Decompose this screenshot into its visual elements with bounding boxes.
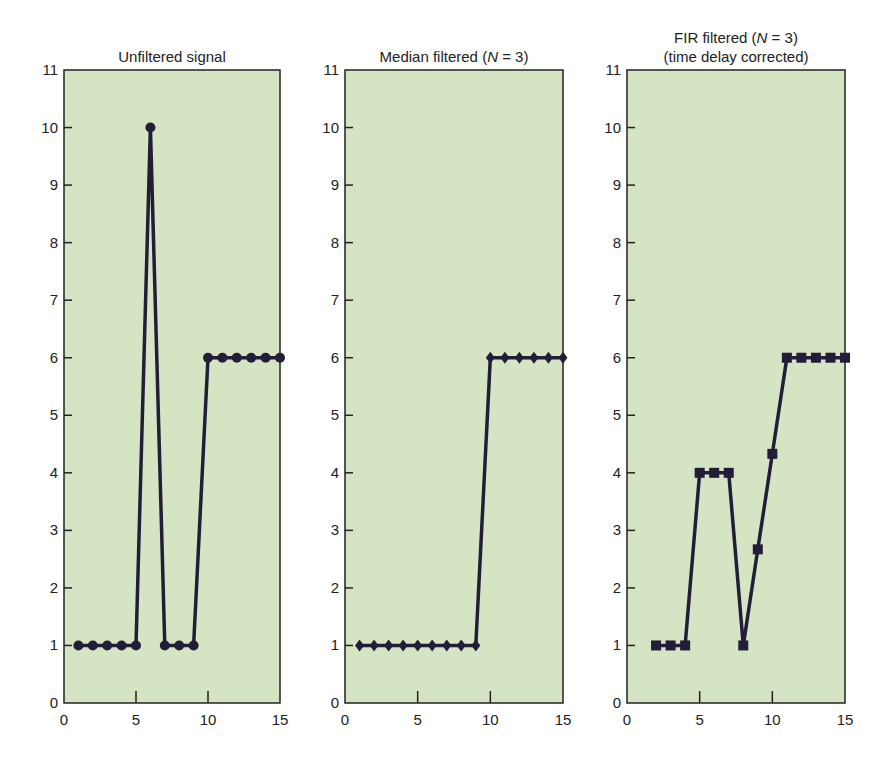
panel-title: FIR filtered (N = 3) <box>674 29 798 46</box>
y-tick-label: 4 <box>331 464 339 481</box>
data-point <box>203 353 213 363</box>
y-tick-label: 9 <box>50 176 58 193</box>
y-tick-label: 3 <box>331 521 339 538</box>
data-point <box>145 123 155 133</box>
x-tick-label: 5 <box>132 711 140 728</box>
data-point <box>666 640 676 650</box>
x-tick-label: 10 <box>482 711 499 728</box>
y-tick-label: 0 <box>331 694 339 711</box>
data-point <box>261 353 271 363</box>
y-tick-label: 11 <box>323 61 339 78</box>
y-tick-label: 5 <box>331 406 339 423</box>
y-tick-label: 6 <box>613 349 621 366</box>
y-tick-label: 8 <box>613 234 621 251</box>
y-tick-label: 9 <box>331 176 339 193</box>
data-point <box>217 353 227 363</box>
data-point <box>131 640 141 650</box>
y-tick-label: 2 <box>331 579 339 596</box>
data-point <box>811 353 821 363</box>
data-point <box>174 640 184 650</box>
y-tick-label: 5 <box>613 406 621 423</box>
y-tick-label: 11 <box>605 61 621 78</box>
data-point <box>782 353 792 363</box>
data-point <box>651 640 661 650</box>
data-point <box>73 640 83 650</box>
y-tick-label: 1 <box>331 636 339 653</box>
data-point <box>88 640 98 650</box>
y-tick-label: 11 <box>42 61 58 78</box>
y-tick-label: 3 <box>50 521 58 538</box>
data-point <box>275 353 285 363</box>
y-tick-label: 2 <box>50 579 58 596</box>
panel-title: (time delay corrected) <box>663 48 808 65</box>
y-tick-label: 7 <box>613 291 621 308</box>
data-point <box>825 353 835 363</box>
chart-panel-1: Unfiltered signal01234567891011051015 <box>41 48 288 728</box>
x-tick-label: 15 <box>272 711 289 728</box>
y-tick-label: 4 <box>50 464 58 481</box>
data-point <box>232 353 242 363</box>
x-tick-label: 0 <box>60 711 68 728</box>
plot-area <box>627 70 845 703</box>
panel-title: Median filtered (N = 3) <box>380 48 529 65</box>
data-point <box>796 353 806 363</box>
data-point <box>189 640 199 650</box>
y-tick-label: 0 <box>50 694 58 711</box>
chart-panel-2: Median filtered (N = 3)01234567891011051… <box>322 48 571 728</box>
data-point <box>753 544 763 554</box>
y-tick-label: 1 <box>50 636 58 653</box>
data-point <box>117 640 127 650</box>
data-point <box>709 468 719 478</box>
y-tick-label: 10 <box>41 119 58 136</box>
data-point <box>246 353 256 363</box>
y-tick-label: 5 <box>50 406 58 423</box>
x-tick-label: 5 <box>695 711 703 728</box>
data-point <box>680 640 690 650</box>
y-tick-label: 4 <box>613 464 621 481</box>
data-point <box>102 640 112 650</box>
y-tick-label: 2 <box>613 579 621 596</box>
x-tick-label: 0 <box>341 711 349 728</box>
y-tick-label: 10 <box>322 119 339 136</box>
y-tick-label: 9 <box>613 176 621 193</box>
data-point <box>695 468 705 478</box>
y-tick-label: 0 <box>613 694 621 711</box>
y-tick-label: 10 <box>604 119 621 136</box>
y-tick-label: 1 <box>613 636 621 653</box>
data-point <box>724 468 734 478</box>
x-tick-label: 10 <box>764 711 781 728</box>
y-tick-label: 8 <box>331 234 339 251</box>
y-tick-label: 7 <box>50 291 58 308</box>
x-tick-label: 15 <box>555 711 572 728</box>
y-tick-label: 7 <box>331 291 339 308</box>
data-point <box>767 449 777 459</box>
data-point <box>738 640 748 650</box>
y-tick-label: 6 <box>50 349 58 366</box>
y-tick-label: 6 <box>331 349 339 366</box>
chart-panel-3: FIR filtered (N = 3)(time delay correcte… <box>604 29 853 728</box>
filter-comparison-figure: Unfiltered signal01234567891011051015Med… <box>0 0 878 763</box>
x-tick-label: 0 <box>623 711 631 728</box>
y-tick-label: 8 <box>50 234 58 251</box>
x-tick-label: 5 <box>413 711 421 728</box>
data-point <box>160 640 170 650</box>
data-point <box>840 353 850 363</box>
x-tick-label: 15 <box>837 711 854 728</box>
panel-title: Unfiltered signal <box>118 48 226 65</box>
plot-area <box>64 70 280 703</box>
plot-area <box>345 70 563 703</box>
y-tick-label: 3 <box>613 521 621 538</box>
x-tick-label: 10 <box>200 711 217 728</box>
